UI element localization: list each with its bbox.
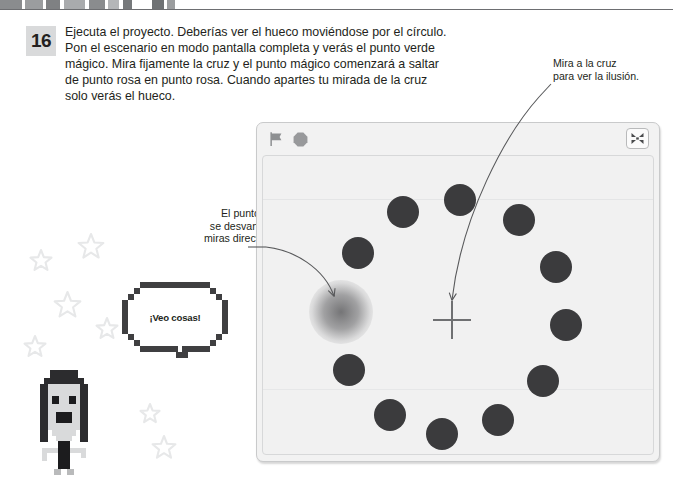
- stop-octagon-icon[interactable]: [293, 132, 308, 147]
- dot: [444, 184, 476, 216]
- star-icon: [55, 292, 81, 316]
- fullscreen-button[interactable]: [626, 128, 649, 149]
- stage-toolbar: [257, 123, 659, 155]
- star-icon: [153, 436, 176, 458]
- speech-bubble: ¡Veo cosas!: [118, 282, 232, 358]
- callout-line: Mira a la cruz: [553, 57, 665, 70]
- step-line: Ejecuta el proyecto. Deberías ver el hue…: [65, 24, 565, 40]
- dot: [482, 404, 514, 436]
- stage-seam: [263, 389, 653, 390]
- green-flag-icon[interactable]: [268, 131, 284, 147]
- dot: [426, 418, 458, 450]
- dot: [387, 196, 419, 228]
- dot: [540, 251, 572, 283]
- step-line: mágico. Mira fijamente la cruz y el punt…: [65, 56, 565, 72]
- dot: [503, 204, 535, 236]
- star-icon: [79, 234, 104, 258]
- step-line: solo verás el hueco.: [65, 88, 565, 104]
- dot: [374, 399, 406, 431]
- crosshair-vertical: [451, 301, 453, 339]
- step-line: Pon el escenario en modo pantalla comple…: [65, 40, 565, 56]
- dot: [342, 237, 374, 269]
- magic-dot: [309, 280, 374, 345]
- star-icon: [25, 336, 46, 356]
- callout-cross: Mira a la cruz para ver la ilusión.: [553, 57, 665, 82]
- dot: [550, 309, 582, 341]
- step-line: de punto rosa en punto rosa. Cuando apar…: [65, 72, 565, 88]
- step-instructions: Ejecuta el proyecto. Deberías ver el hue…: [65, 24, 565, 104]
- callout-line: para ver la ilusión.: [553, 70, 665, 83]
- step-number: 16: [26, 26, 56, 56]
- dot: [527, 365, 559, 397]
- pixel-character-sprite: [30, 366, 98, 486]
- star-icon: [140, 404, 159, 422]
- speech-bubble-text: ¡Veo cosas!: [118, 312, 232, 323]
- book-page: 16 Ejecuta el proyecto. Deberías ver el …: [0, 0, 673, 491]
- star-icon: [97, 318, 118, 338]
- star-icon: [31, 250, 52, 270]
- dot: [333, 354, 365, 386]
